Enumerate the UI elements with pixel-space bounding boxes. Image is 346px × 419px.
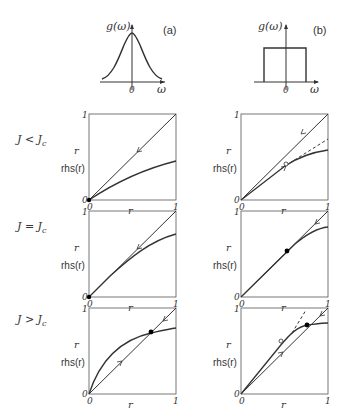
panel-a-distribution xyxy=(100,24,165,90)
ylabel-rhs: rhs(r) xyxy=(61,260,85,271)
xtick-1: 1 xyxy=(325,202,331,212)
omega-tick-0-a: 0 xyxy=(129,85,135,95)
unstable-fixed-point xyxy=(284,162,288,166)
ylabel-rhs: rhs(r) xyxy=(213,357,237,368)
plot-b-row2 xyxy=(241,211,328,297)
ylabel-r: r xyxy=(226,242,232,253)
rhs-dashed xyxy=(285,139,328,166)
ylabel-rhs: rhs(r) xyxy=(213,260,237,271)
diagonal-r xyxy=(89,114,176,200)
ylabel-r: r xyxy=(74,145,80,156)
xtick-1: 1 xyxy=(325,396,331,406)
row-label-text: J > J xyxy=(17,313,42,326)
plot-a-row1 xyxy=(87,114,176,202)
ylabel-rhs: rhs(r) xyxy=(213,163,237,174)
ytick-1: 1 xyxy=(82,207,88,217)
panel-label-b: (b) xyxy=(313,24,326,36)
diagonal-r xyxy=(241,114,328,200)
xtick-0: 0 xyxy=(239,202,245,212)
ytick-1: 1 xyxy=(234,207,240,217)
stable-fixed-point xyxy=(285,249,290,254)
row-label-sub: c xyxy=(42,139,46,148)
panel-b-distribution xyxy=(254,24,319,90)
xlabel-r: r xyxy=(128,399,134,410)
row-label-text: J = J xyxy=(17,220,42,233)
xlabel-r: r xyxy=(128,205,134,216)
xtick-0: 0 xyxy=(239,299,245,309)
g-omega-label-b: g(ω) xyxy=(258,20,283,33)
xtick-1: 1 xyxy=(173,202,179,212)
rhs-dashed xyxy=(292,310,306,333)
xtick-0: 0 xyxy=(87,396,93,406)
row-label-j-greater: J > Jc xyxy=(17,313,47,328)
row-label-text: J < J xyxy=(17,133,42,146)
row-label-sub: c xyxy=(42,319,46,328)
row-label-sub: c xyxy=(42,226,46,235)
xlabel-r: r xyxy=(281,399,287,410)
figure-canvas: g(ω) (a) 0 ω g(ω) (b) 0 ω xyxy=(0,0,346,419)
ylabel-rhs: rhs(r) xyxy=(61,357,85,368)
xtick-0: 0 xyxy=(87,299,93,309)
plot-b-row1 xyxy=(241,114,328,200)
xtick-1: 1 xyxy=(173,396,179,406)
omega-tick-0-b: 0 xyxy=(283,85,289,95)
panel-label-a: (a) xyxy=(163,24,176,36)
g-omega-label-a: g(ω) xyxy=(106,20,131,33)
omega-label-a: ω xyxy=(157,83,166,96)
xlabel-r: r xyxy=(281,302,287,313)
stable-fixed-point xyxy=(305,323,310,328)
plot-a-row2 xyxy=(87,211,176,299)
xtick-1: 1 xyxy=(325,299,331,309)
diagonal-r xyxy=(241,308,328,394)
row-label-j-equal: J = Jc xyxy=(17,220,47,235)
xlabel-r: r xyxy=(128,302,134,313)
ytick-1: 1 xyxy=(82,304,88,314)
stable-fixed-point xyxy=(149,330,154,335)
row-label-j-less: J < Jc xyxy=(17,133,47,148)
flow-arrow-icon xyxy=(301,129,306,134)
ylabel-r: r xyxy=(226,339,232,350)
rhs-curve xyxy=(89,328,176,394)
plot-b-row3 xyxy=(241,308,328,394)
ytick-1: 1 xyxy=(234,110,240,120)
rhs-curve xyxy=(89,234,176,297)
xlabel-r: r xyxy=(281,205,287,216)
xtick-0: 0 xyxy=(87,202,93,212)
xtick-1: 1 xyxy=(173,299,179,309)
ytick-1: 1 xyxy=(234,304,240,314)
ylabel-r: r xyxy=(226,145,232,156)
axis-arrow-icon xyxy=(284,24,288,29)
unstable-fixed-point xyxy=(279,339,283,343)
rhs-curve xyxy=(241,323,328,394)
plot-a-row3 xyxy=(89,308,176,394)
ytick-1: 1 xyxy=(82,110,88,120)
rhs-curve xyxy=(241,227,328,297)
rhs-curve xyxy=(89,161,176,200)
ylabel-r: r xyxy=(74,242,80,253)
uniform-box xyxy=(264,48,306,82)
ylabel-r: r xyxy=(74,339,80,350)
ylabel-rhs: rhs(r) xyxy=(61,163,85,174)
omega-label-b: ω xyxy=(310,83,319,96)
axis-labels: r r r r r r r r r r r r rhs(r) rhs(r) rh… xyxy=(61,145,287,410)
xtick-0: 0 xyxy=(239,396,245,406)
